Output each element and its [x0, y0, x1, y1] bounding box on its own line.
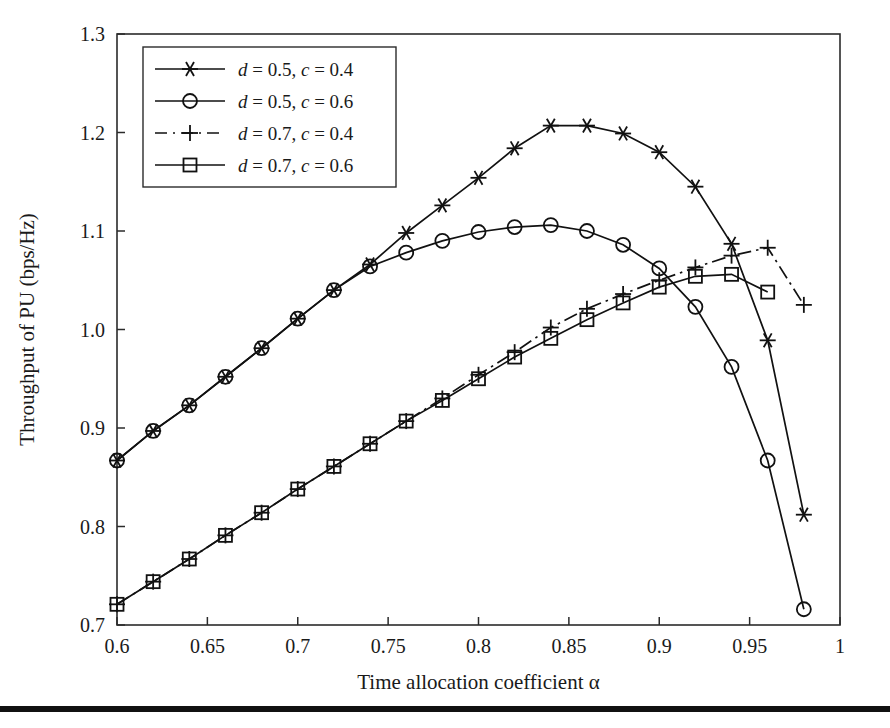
legend-label: d = 0.7, c = 0.6 [238, 155, 353, 176]
legend: d = 0.5, c = 0.4d = 0.5, c = 0.6d = 0.7,… [143, 47, 396, 187]
legend-label: d = 0.5, c = 0.6 [238, 91, 353, 112]
y-tick-label: 1.0 [80, 319, 105, 341]
legend-label: d = 0.5, c = 0.4 [238, 59, 354, 80]
x-tick-label: 0.85 [551, 635, 586, 657]
x-tick-label: 0.95 [732, 635, 767, 657]
x-tick-label: 1 [835, 635, 845, 657]
y-axis-title: Throughput of PU (bps/Hz) [15, 213, 39, 446]
x-tick-label: 0.65 [190, 635, 225, 657]
x-tick-label: 0.75 [371, 635, 406, 657]
y-tick-label: 1.2 [80, 122, 105, 144]
x-tick-label: 0.8 [466, 635, 491, 657]
figure-container: 0.60.650.70.750.80.850.90.9510.70.80.91.… [0, 0, 890, 728]
x-tick-label: 0.9 [647, 635, 672, 657]
legend-label: d = 0.7, c = 0.4 [238, 123, 354, 144]
x-tick-label: 0.6 [105, 635, 130, 657]
x-tick-label: 0.7 [285, 635, 310, 657]
y-tick-label: 0.8 [80, 516, 105, 538]
x-axis-title: Time allocation coefficient α [357, 670, 600, 694]
page-bottom-rule [0, 706, 890, 712]
y-tick-label: 1.3 [80, 23, 105, 45]
y-tick-label: 0.9 [80, 417, 105, 439]
throughput-line-chart: 0.60.650.70.750.80.850.90.9510.70.80.91.… [0, 0, 890, 728]
y-tick-label: 1.1 [80, 220, 105, 242]
y-tick-label: 0.7 [80, 614, 105, 636]
